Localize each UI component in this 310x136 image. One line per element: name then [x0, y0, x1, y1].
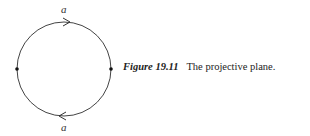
figure-caption-text: The projective plane. [186, 61, 275, 72]
left-vertex-dot [15, 67, 19, 71]
right-vertex-dot [109, 67, 113, 71]
figure-number: Figure 19.11 [123, 61, 178, 72]
top-edge-label: a [61, 3, 67, 15]
bottom-edge-label: a [61, 121, 67, 133]
boundary-circle [17, 22, 111, 116]
figure-caption: Figure 19.11The projective plane. [123, 61, 275, 72]
